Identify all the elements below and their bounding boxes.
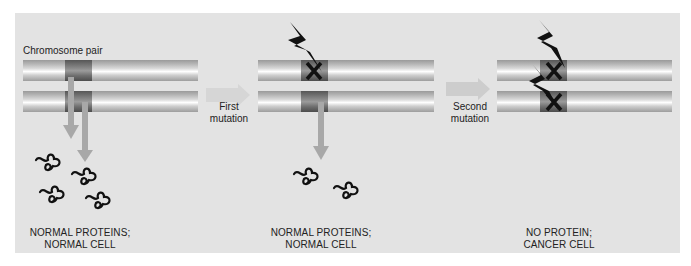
chromosome-top bbox=[497, 60, 672, 81]
caption-line: NORMAL CELL bbox=[258, 239, 384, 251]
transition-line: mutation bbox=[440, 113, 500, 125]
folded-protein-icon bbox=[292, 166, 322, 188]
chromosome-bottom bbox=[497, 91, 672, 112]
stage-caption: NORMAL PROTEINS; NORMAL CELL bbox=[258, 227, 384, 251]
caption-line: NO PROTEIN; bbox=[496, 227, 622, 239]
transition-label: Second mutation bbox=[440, 101, 500, 125]
folded-protein-icon bbox=[332, 180, 362, 202]
x-mark-icon bbox=[546, 93, 562, 111]
transition-line: Second bbox=[440, 101, 500, 113]
caption-line: NORMAL PROTEINS; bbox=[258, 227, 384, 239]
x-mark-icon bbox=[546, 62, 562, 80]
right-block-arrow-icon bbox=[446, 78, 492, 100]
caption-line: CANCER CELL bbox=[496, 239, 622, 251]
stage-caption: NO PROTEIN; CANCER CELL bbox=[496, 227, 622, 251]
